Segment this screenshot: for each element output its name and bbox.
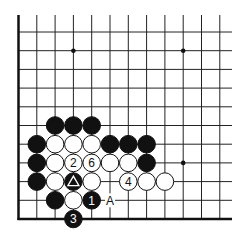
star-point-icon [71, 48, 76, 53]
white-stone [138, 173, 156, 191]
black-stone: 3 [65, 210, 83, 228]
white-stone [65, 192, 83, 210]
black-stone [65, 117, 83, 135]
move-number: 4 [125, 175, 132, 189]
point-label: A [106, 194, 114, 208]
white-stone [156, 173, 174, 191]
black-stone [138, 135, 156, 153]
move-number: 2 [70, 156, 77, 170]
white-stone [83, 173, 101, 191]
white-stone: 4 [120, 173, 138, 191]
black-stone [83, 117, 101, 135]
white-stone [101, 154, 119, 172]
board-labels: A [105, 193, 115, 208]
white-stone: 6 [83, 154, 101, 172]
move-number: 3 [70, 212, 77, 226]
black-stone [28, 154, 46, 172]
black-stone [138, 154, 156, 172]
star-point-icon [181, 161, 186, 166]
white-stone: 2 [65, 154, 83, 172]
white-stone [46, 154, 64, 172]
white-stone [65, 135, 83, 153]
white-stone [120, 154, 138, 172]
white-stone [46, 135, 64, 153]
black-stone [28, 173, 46, 191]
black-stone [46, 117, 64, 135]
black-stone [65, 173, 83, 191]
star-point-icon [181, 48, 186, 53]
black-stone [46, 192, 64, 210]
black-stone [28, 135, 46, 153]
go-board-diagram: 26413 A [0, 0, 249, 240]
black-stone [101, 135, 119, 153]
stones-layer: 26413 [28, 117, 174, 228]
move-number: 1 [88, 194, 95, 208]
move-number: 6 [88, 156, 95, 170]
white-stone [83, 135, 101, 153]
black-stone [120, 135, 138, 153]
white-stone [46, 173, 64, 191]
black-stone: 1 [83, 192, 101, 210]
